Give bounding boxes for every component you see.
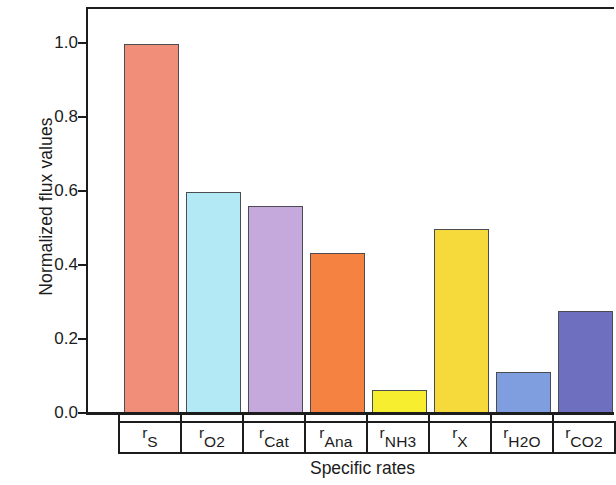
bar-r_S: [124, 44, 179, 414]
x-label-subscript: O2: [204, 433, 225, 451]
bar-r_CO2: [558, 311, 613, 414]
x-axis-line: [86, 412, 614, 415]
y-axis-tick-label: 0.2: [26, 330, 78, 347]
x-label-subscript: CO2: [570, 433, 602, 451]
x-axis-label-cell-r_NH3: rNH3: [368, 423, 430, 452]
bar-r_X: [434, 229, 489, 414]
x-axis-tick-mark: [180, 414, 182, 422]
y-axis-tick-label: 0.8: [26, 108, 78, 125]
bar-r_Ana: [310, 253, 365, 414]
x-axis-label-cell-r_H2O: rH2O: [492, 423, 554, 452]
x-axis-tick-mark: [552, 414, 554, 422]
x-axis-label-cell-r_Ana: rAna: [306, 423, 368, 452]
x-label-subscript: Ana: [324, 433, 352, 451]
x-axis-tick-mark: [242, 414, 244, 422]
x-axis-tick-mark: [490, 414, 492, 422]
x-label-subscript: H2O: [508, 433, 540, 451]
y-axis-tick-label: 0.6: [26, 182, 78, 199]
x-axis-label-cell-r_S: rS: [120, 423, 182, 452]
x-axis-title: Specific rates: [118, 458, 607, 479]
bar-r_O2: [186, 192, 241, 414]
x-label-subscript: Cat: [264, 433, 289, 451]
x-axis-tick-mark: [118, 414, 120, 422]
x-axis-tick-mark: [428, 414, 430, 422]
plot-area: [86, 7, 614, 414]
x-axis-label-cell-r_CO2: rCO2: [554, 423, 616, 452]
y-axis-tick-label: 1.0: [26, 34, 78, 51]
x-axis-label-table: rSrO2rCatrAnarNH3rXrH2OrCO2: [118, 421, 616, 454]
x-axis-label-cell-r_O2: rO2: [182, 423, 244, 452]
x-axis-tick-mark: [304, 414, 306, 422]
x-axis-label-cell-r_Cat: rCat: [244, 423, 306, 452]
y-axis-tick-label: 0.0: [26, 404, 78, 421]
y-axis-tick-group: 0.00.20.40.60.81.0: [20, 0, 78, 485]
y-axis-tick-label: 0.4: [26, 256, 78, 273]
x-axis-tick-mark: [366, 414, 368, 422]
bar-r_Cat: [248, 206, 303, 414]
bar-r_NH3: [372, 390, 427, 414]
x-label-subscript: S: [147, 433, 158, 451]
x-axis-label-cell-r_X: rX: [430, 423, 492, 452]
x-label-subscript: X: [457, 433, 468, 451]
x-label-subscript: NH3: [385, 433, 417, 451]
bar-r_H2O: [496, 372, 551, 414]
